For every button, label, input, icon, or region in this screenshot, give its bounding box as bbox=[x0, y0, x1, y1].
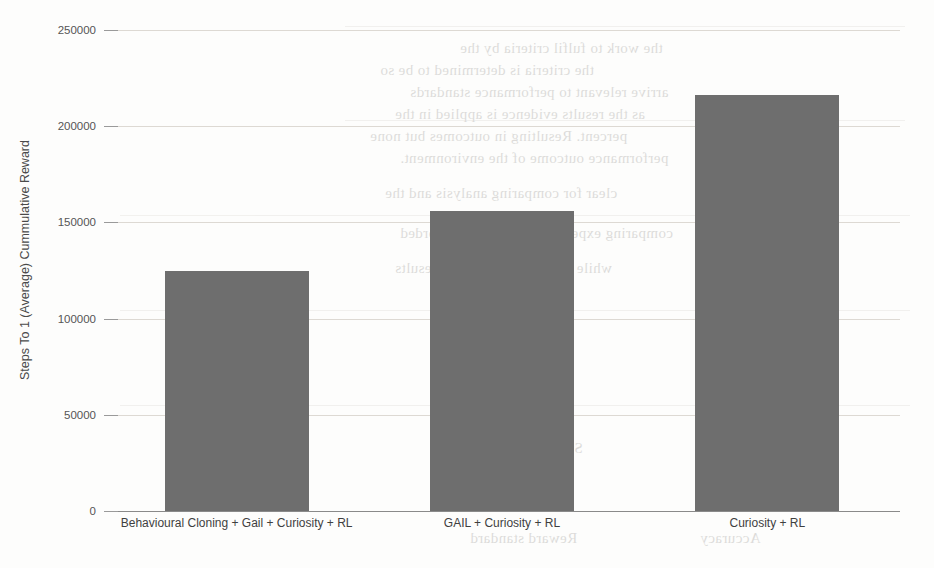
y-tick-label: 200000 bbox=[0, 120, 100, 132]
y-axis-title: Steps To 1 (Average) Cummulative Reward bbox=[14, 0, 36, 520]
y-tick-mark bbox=[104, 222, 118, 223]
y-tick-mark bbox=[104, 30, 118, 31]
y-tick-label: 250000 bbox=[0, 24, 100, 36]
y-tick-mark bbox=[104, 319, 118, 320]
y-tick-mark bbox=[104, 126, 118, 127]
x-tick-label: GAIL + Curiosity + RL bbox=[444, 516, 560, 530]
bar[interactable] bbox=[165, 271, 309, 512]
x-tick-label: Curiosity + RL bbox=[729, 516, 805, 530]
y-tick-label: 150000 bbox=[0, 216, 100, 228]
gridline bbox=[104, 511, 900, 512]
y-tick-label: 50000 bbox=[0, 409, 100, 421]
y-tick-label: 0 bbox=[0, 505, 100, 517]
y-axis-title-text: Steps To 1 (Average) Cummulative Reward bbox=[18, 140, 32, 380]
y-tick-label: 100000 bbox=[0, 313, 100, 325]
gridline bbox=[104, 30, 900, 31]
bar-chart: Steps To 1 (Average) Cummulative Reward … bbox=[0, 0, 934, 568]
bar[interactable] bbox=[695, 95, 839, 511]
x-tick-label: Behavioural Cloning + Gail + Curiosity +… bbox=[121, 516, 353, 530]
bar[interactable] bbox=[430, 211, 574, 511]
y-tick-mark bbox=[104, 511, 118, 512]
y-tick-mark bbox=[104, 415, 118, 416]
